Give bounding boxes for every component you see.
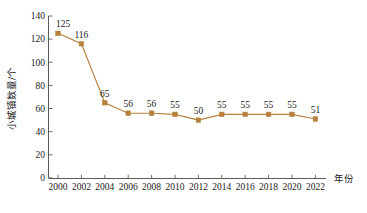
- data-point-label: 55: [217, 100, 227, 110]
- x-tick-label: 2012: [189, 182, 208, 192]
- series-data-labels: 12511665565655505555555551: [56, 19, 321, 116]
- data-point-label: 55: [240, 100, 250, 110]
- data-point-label: 50: [194, 106, 204, 116]
- y-tick-label: 80: [36, 81, 46, 91]
- data-point-marker: [56, 31, 61, 36]
- data-point-marker: [290, 112, 295, 117]
- data-point-marker: [126, 111, 131, 116]
- data-point-label: 55: [170, 100, 180, 110]
- data-point-label: 51: [311, 105, 321, 115]
- x-tick-label: 2002: [72, 182, 91, 192]
- x-tick-label: 2022: [306, 182, 325, 192]
- data-point-marker: [313, 117, 318, 122]
- x-tick-label: 2010: [166, 182, 185, 192]
- data-point-label: 56: [123, 99, 133, 109]
- data-point-marker: [103, 100, 108, 105]
- data-point-marker: [266, 112, 271, 117]
- x-tick-label: 2014: [212, 182, 231, 192]
- data-point-marker: [220, 112, 225, 117]
- data-point-label: 125: [56, 19, 71, 29]
- data-point-label: 116: [74, 30, 88, 40]
- y-axis-tick-labels: 140 120 100 80 60 40 20 0: [31, 11, 46, 183]
- y-tick-label: 140: [31, 11, 46, 21]
- data-point-label: 56: [147, 99, 157, 109]
- x-axis-ticks: [58, 175, 315, 179]
- x-axis-tick-labels: 2000 2002 2004 2006 2008 2010 2012 2014 …: [49, 182, 326, 192]
- data-point-marker: [79, 41, 84, 46]
- data-point-marker: [196, 118, 201, 123]
- y-tick-label: 20: [36, 150, 46, 160]
- y-tick-label: 40: [36, 127, 46, 137]
- x-tick-label: 2020: [283, 182, 302, 192]
- data-point-label: 55: [287, 100, 297, 110]
- line-chart: 140 120 100 80 60 40 20 0 2000: [0, 0, 367, 213]
- y-tick-label: 0: [40, 173, 45, 183]
- y-tick-label: 100: [31, 58, 46, 68]
- x-tick-label: 2016: [236, 182, 255, 192]
- y-axis-ticks: [49, 16, 53, 178]
- x-tick-label: 2008: [142, 182, 161, 192]
- data-point-label: 55: [264, 100, 274, 110]
- y-tick-label: 120: [31, 34, 46, 44]
- y-axis-title: 小城镇数量/个: [6, 67, 17, 130]
- data-point-marker: [173, 112, 178, 117]
- chart-svg: 140 120 100 80 60 40 20 0 2000: [0, 0, 367, 213]
- figure-caption: [0, 205, 367, 213]
- data-point-marker: [243, 112, 248, 117]
- x-tick-label: 2004: [95, 182, 114, 192]
- y-tick-label: 60: [36, 104, 46, 114]
- x-axis-title: 年份: [334, 173, 354, 184]
- x-tick-label: 2000: [49, 182, 68, 192]
- data-point-marker: [149, 111, 154, 116]
- x-tick-label: 2006: [119, 182, 138, 192]
- data-point-label: 65: [100, 89, 110, 99]
- series-line: [58, 33, 315, 120]
- x-tick-label: 2018: [259, 182, 278, 192]
